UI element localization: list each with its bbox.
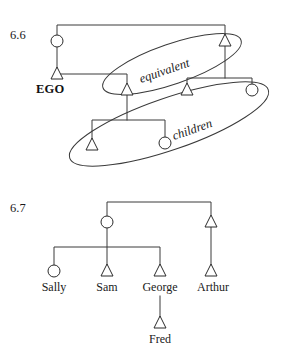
label-george: George — [142, 280, 177, 294]
node-sally-circle — [48, 265, 60, 277]
node-child-female-circle — [159, 137, 171, 149]
node-equivalent-male-left-triangle — [121, 83, 133, 95]
label-sam: Sam — [96, 280, 118, 294]
node-mother-circle — [51, 35, 63, 47]
figure-number-6-6: 6.6 — [10, 28, 26, 42]
children-ellipse — [61, 65, 276, 183]
figure-6-7-links — [54, 202, 211, 317]
node-george-triangle — [154, 264, 166, 276]
node-mother-circle-6-7 — [101, 216, 113, 228]
node-equivalent-male-right-triangle — [181, 83, 193, 95]
node-mothers-brother-triangle-6-7 — [205, 215, 217, 227]
node-spouse-female-circle — [246, 84, 258, 96]
label-fred: Fred — [149, 332, 171, 346]
sibling-bar-top-6-7 — [107, 202, 211, 222]
node-child-male-triangle — [86, 138, 98, 150]
children-bar — [92, 120, 165, 139]
label-sally: Sally — [42, 280, 67, 294]
ego-label: EGO — [36, 82, 64, 96]
label-arthur: Arthur — [197, 280, 229, 294]
sibling-bar-top — [57, 25, 225, 41]
figure-page: 6.6 EGO e — [0, 0, 283, 359]
node-ego-triangle — [51, 67, 63, 79]
node-fred-triangle — [154, 316, 166, 328]
figure-6-7: 6.7 Sally Sam George Arthur Fred — [10, 201, 229, 346]
marriage-ego-equivalent — [57, 74, 127, 84]
children-label: children — [170, 116, 214, 143]
node-sam-triangle — [101, 264, 113, 276]
node-arthur-triangle — [205, 264, 217, 276]
kinship-diagrams-svg: 6.6 EGO e — [0, 0, 283, 359]
figure-6-6: 6.6 EGO e — [10, 21, 277, 182]
figure-number-6-7: 6.7 — [10, 201, 26, 215]
node-mothers-brother-triangle — [219, 34, 231, 46]
